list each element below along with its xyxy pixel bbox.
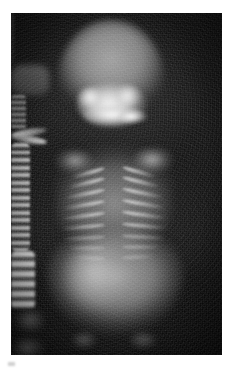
orbit-right	[115, 85, 141, 106]
mandible-region	[119, 109, 149, 124]
thoracic-spine	[11, 143, 30, 251]
foot-left	[71, 331, 97, 349]
pelvis-left	[11, 309, 45, 337]
neck-region	[11, 65, 49, 95]
lumbar-spine	[11, 251, 35, 309]
pelvis-right	[11, 337, 47, 355]
page-canvas	[0, 0, 233, 369]
page-artifact-mark	[8, 362, 15, 366]
cervical-spine	[11, 95, 26, 129]
radiograph-film	[11, 13, 222, 355]
foot-right	[129, 331, 157, 349]
abdomen-highlight	[65, 241, 129, 311]
orbit-left	[78, 87, 102, 107]
cranial-suture	[11, 13, 14, 65]
radiograph-image	[11, 13, 222, 355]
